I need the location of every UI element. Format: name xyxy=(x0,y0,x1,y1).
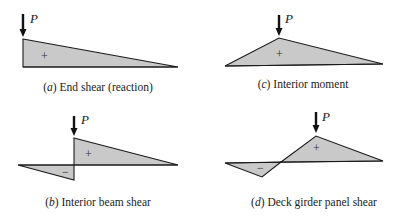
positive-sign: + xyxy=(85,147,92,161)
positive-sign: + xyxy=(276,47,283,61)
load-arrow-icon xyxy=(276,15,283,36)
influence-lines-figure: P + (a) End shear (reaction) P + (c) Int… xyxy=(0,0,398,224)
caption-b: (b) Interior beam shear xyxy=(45,196,151,209)
positive-sign: + xyxy=(313,141,320,155)
caption-d: (d) Deck girder panel shear xyxy=(251,196,377,209)
panel-d-deck-girder-panel-shear: P + − (d) Deck girder panel shear xyxy=(225,109,383,209)
load-label: P xyxy=(80,112,89,127)
negative-sign: − xyxy=(62,165,69,179)
caption-c: (c) Interior moment xyxy=(258,78,350,91)
caption-a: (a) End shear (reaction) xyxy=(43,81,153,94)
negative-influence-area xyxy=(225,162,281,177)
panel-c-interior-moment: P + (c) Interior moment xyxy=(225,11,383,91)
negative-sign: − xyxy=(257,161,264,175)
load-label: P xyxy=(284,11,293,26)
load-arrow-icon xyxy=(71,116,78,136)
positive-sign: + xyxy=(41,49,48,63)
panel-b-interior-beam-shear: P + − (b) Interior beam shear xyxy=(18,112,178,209)
load-arrow-icon xyxy=(313,112,320,133)
positive-influence-area xyxy=(281,136,383,162)
load-arrow-icon xyxy=(20,14,27,37)
positive-influence-area xyxy=(225,38,383,66)
panel-a-end-shear: P + (a) End shear (reaction) xyxy=(20,11,179,94)
load-label: P xyxy=(29,11,38,26)
load-label: P xyxy=(321,109,330,124)
